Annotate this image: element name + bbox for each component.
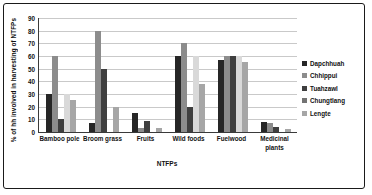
x-tick-label: Wild foods [169,135,209,159]
bar [199,84,205,132]
y-tick-label: 50 [19,65,35,72]
legend-label: Tuahzawl [310,85,338,92]
y-tick-label: 20 [19,103,35,110]
bar-group [261,18,291,132]
legend-label: Dapchhuah [310,60,344,67]
bar-group [132,18,162,132]
legend-swatch-icon [302,111,307,116]
legend-swatch-icon [302,73,307,78]
legend-label: Lengte [310,110,331,117]
y-tick-label: 30 [19,91,35,98]
y-tick-label: 10 [19,116,35,123]
y-tick-label: 40 [19,78,35,85]
chart-frame: % of hh involved in harvesting of NTFPs … [3,3,365,189]
x-tick-label: Fuelwood [212,135,252,159]
bar-group [218,18,248,132]
y-tick-label: 90 [19,15,35,22]
x-tick-label: Fruits [126,135,166,159]
legend-label: Chungtlang [310,97,345,104]
x-tick-label: Medicinal plants [255,135,295,159]
x-axis-tick-labels: Bamboo poleBroom grassFruitsWild foodsFu… [38,135,296,159]
y-tick-label: 0 [19,129,35,136]
bar [70,100,76,132]
legend-swatch-icon [302,86,307,91]
y-tick-label: 70 [19,40,35,47]
y-tick-label: 60 [19,53,35,60]
legend-label: Chhippui [310,72,337,79]
bar [101,69,107,132]
bar-group [46,18,76,132]
bar [113,107,119,132]
bar-group [175,18,205,132]
bar [242,62,248,132]
legend-item[interactable]: Chhippui [302,72,364,79]
x-axis-title: NTFPs [38,160,296,167]
x-tick-label: Broom grass [83,135,123,159]
legend-item[interactable]: Lengte [302,110,364,117]
y-tick-label: 80 [19,27,35,34]
y-axis-title-text: % of hh involved in harvesting of NTFPs [10,18,17,142]
legend-item[interactable]: Chungtlang [302,97,364,104]
bar-group [89,18,119,132]
bar [273,127,279,132]
legend-swatch-icon [302,61,307,66]
y-axis-ticks: 9080706050403020100 [20,18,36,132]
legend-swatch-icon [302,98,307,103]
bar [285,129,291,132]
bar [156,128,162,132]
legend-item[interactable]: Dapchhuah [302,60,364,67]
bar-groups [39,18,297,132]
plot-area [38,18,297,133]
x-tick-label: Bamboo pole [40,135,80,159]
legend-item[interactable]: Tuahzawl [302,85,364,92]
chart-legend: DapchhuahChhippuiTuahzawlChungtlangLengt… [302,60,364,122]
bar [144,121,150,132]
